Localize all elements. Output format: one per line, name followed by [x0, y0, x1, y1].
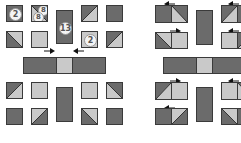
dark-square — [237, 5, 241, 23]
half-square-triangle: 8 8 — [31, 5, 48, 22]
center-rectangle — [196, 87, 213, 122]
count-badge: 2 — [84, 34, 97, 47]
dark-square — [155, 108, 172, 125]
light-square — [171, 32, 188, 49]
dark-square — [106, 108, 123, 125]
half-square-triangle — [106, 31, 123, 48]
arrow-left-icon — [72, 47, 84, 55]
half-square-triangle — [106, 82, 123, 99]
sash-right — [212, 57, 241, 74]
light-square — [31, 31, 48, 48]
light-square — [221, 32, 238, 49]
dark-square: 2 — [6, 5, 23, 22]
light-square — [221, 82, 238, 100]
half-square-triangle — [6, 82, 23, 99]
sash-right — [72, 57, 106, 74]
half-square-triangle — [31, 108, 48, 125]
half-square-triangle — [221, 108, 238, 125]
half-square-triangle — [6, 31, 23, 48]
half-square-triangle — [237, 82, 241, 100]
count-badge: 8 — [33, 12, 44, 22]
sash-left — [163, 57, 197, 74]
light-square: 2 — [81, 31, 98, 48]
half-square-triangle — [81, 5, 98, 22]
center-rectangle: 13 — [56, 10, 73, 44]
center-rectangle — [196, 10, 213, 45]
half-square-triangle — [171, 5, 188, 23]
center-rectangle — [56, 87, 73, 122]
arrow-right-icon — [44, 47, 56, 55]
count-badge: 13 — [59, 22, 72, 35]
count-badge: 2 — [9, 8, 22, 21]
half-square-triangle — [155, 82, 172, 100]
dark-square — [237, 108, 241, 125]
sash-left — [23, 57, 57, 74]
half-square-triangle — [81, 108, 98, 125]
sash-center-square — [196, 57, 213, 74]
half-square-triangle — [221, 5, 238, 23]
half-square-triangle — [155, 32, 172, 49]
dark-square — [155, 5, 172, 23]
half-square-triangle — [171, 108, 188, 125]
dark-square — [106, 5, 123, 22]
light-square — [31, 82, 48, 99]
light-square — [81, 82, 98, 99]
dark-square — [6, 108, 23, 125]
sash-center-square — [56, 57, 73, 74]
light-square — [171, 82, 188, 100]
half-square-triangle — [237, 32, 241, 49]
